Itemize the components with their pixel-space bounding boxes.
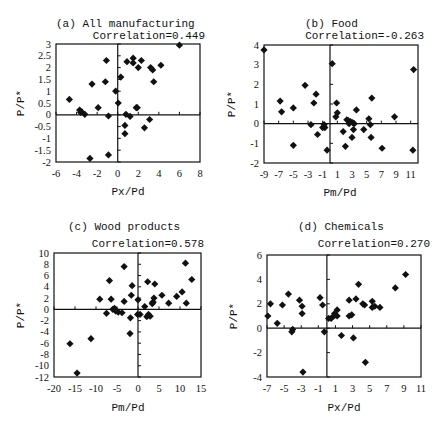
x-tick-label: -10: [89, 383, 103, 394]
x-tick-label: -15: [68, 383, 82, 394]
x-tick-label: 9: [401, 383, 406, 394]
y-tick-label: 10: [39, 248, 50, 259]
x-tick-label: -7: [263, 383, 272, 394]
y-tick-label: 1: [46, 86, 51, 97]
x-tick-label: -5: [113, 383, 122, 394]
correlation-annotation: Correlation=0.449: [93, 30, 205, 42]
x-tick-label: 10: [175, 383, 186, 394]
y-axis-label: P/P*: [228, 303, 240, 329]
x-axis-label: Pm/Pd: [323, 187, 356, 199]
y-tick-label: -4: [253, 372, 262, 383]
y-tick-label: 2: [254, 79, 259, 90]
y-tick-label: -6: [40, 338, 49, 349]
x-tick-label: 1: [333, 383, 338, 394]
x-tick-label: -9: [260, 169, 269, 180]
y-tick-label: -1.5: [34, 145, 51, 156]
chart-title: (b) Food: [305, 18, 358, 30]
y-tick-label: 0: [44, 304, 49, 315]
figure-background: [0, 0, 445, 423]
chart-title: (d) Chemicals: [298, 221, 384, 233]
x-tick-label: 3: [349, 169, 354, 180]
y-tick-label: -4: [40, 326, 49, 337]
x-tick-label: 4: [156, 168, 162, 179]
y-tick-label: -10: [35, 360, 49, 371]
x-tick-label: 7: [379, 169, 384, 180]
y-tick-label: 2: [257, 298, 262, 309]
y-tick-label: 3: [254, 59, 259, 70]
x-tick-label: -6: [52, 168, 61, 179]
x-tick-label: 6: [177, 168, 182, 179]
y-tick-label: -2: [42, 157, 51, 168]
y-tick-label: 1: [254, 99, 259, 110]
correlation-annotation: Correlation=0.578: [92, 238, 204, 250]
y-tick-label: 6: [257, 250, 262, 261]
x-tick-label: 7: [384, 383, 389, 394]
x-tick-label: 0: [135, 383, 140, 394]
y-tick-label: 2.5: [38, 50, 51, 61]
x-axis-label: Px/Pd: [111, 186, 144, 198]
x-tick-label: -2: [93, 168, 102, 179]
x-tick-label: 1: [335, 169, 340, 180]
x-tick-label: 15: [196, 383, 207, 394]
y-axis-label: P/P*: [15, 90, 27, 116]
correlation-annotation: Correlation=-0.263: [305, 30, 424, 42]
y-tick-label: -2: [250, 158, 259, 169]
x-axis-label: Pm/Pd: [111, 402, 144, 414]
y-tick-label: 0: [257, 323, 262, 334]
y-tick-label: -12: [35, 372, 49, 383]
x-tick-label: 8: [197, 168, 202, 179]
y-tick-label: -1: [250, 138, 259, 149]
chart-title: (a) All manufacturing: [56, 18, 195, 30]
x-axis-label: Px/Pd: [327, 402, 360, 414]
x-tick-label: -3: [297, 383, 306, 394]
x-tick-label: -5: [280, 383, 289, 394]
y-tick-label: 6: [44, 270, 49, 281]
y-tick-label: -2: [253, 347, 262, 358]
y-tick-label: -8: [40, 349, 49, 360]
x-tick-label: -1: [318, 169, 327, 180]
y-axis-label: P/P*: [15, 302, 27, 328]
y-tick-label: 2: [44, 293, 49, 304]
x-tick-label: -4: [72, 168, 81, 179]
x-tick-label: 9: [393, 169, 398, 180]
x-tick-label: 11: [406, 169, 416, 180]
y-axis-label: P/P*: [226, 91, 238, 117]
y-tick-label: 1.5: [38, 74, 51, 85]
y-tick-label: 8: [44, 259, 49, 270]
y-tick-label: -1: [42, 133, 51, 144]
y-tick-label: 0.5: [38, 98, 51, 109]
y-tick-label: 2: [46, 62, 51, 73]
y-tick-label: 4: [44, 281, 50, 292]
x-tick-label: 5: [364, 169, 369, 180]
x-tick-label: 11: [416, 383, 426, 394]
y-tick-label: 3: [46, 39, 51, 50]
y-tick-label: 0: [46, 109, 51, 120]
x-tick-label: 3: [350, 383, 355, 394]
x-tick-label: -7: [274, 169, 283, 180]
x-tick-label: 5: [156, 383, 161, 394]
chart-title: (c) Wood products: [68, 221, 180, 233]
y-tick-label: 4: [254, 40, 260, 51]
x-tick-label: -1: [314, 383, 323, 394]
x-tick-label: 5: [367, 383, 372, 394]
y-tick-label: 0: [254, 118, 259, 129]
x-tick-label: -5: [289, 169, 298, 180]
figure-canvas: (a) All manufacturing Correlation=0.449 …: [0, 0, 445, 423]
y-tick-label: 4: [257, 274, 263, 285]
x-tick-label: -20: [47, 383, 61, 394]
x-tick-label: 2: [136, 168, 141, 179]
x-tick-label: -3: [304, 169, 313, 180]
y-tick-label: -0.5: [34, 121, 51, 132]
y-tick-label: -2: [40, 315, 49, 326]
x-tick-label: 0: [115, 168, 120, 179]
correlation-annotation: Correlation=0.270: [318, 238, 430, 250]
